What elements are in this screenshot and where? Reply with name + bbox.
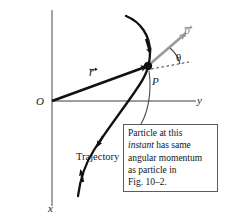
position-vector-group <box>52 66 148 101</box>
theta-angle-label: θ <box>176 52 181 63</box>
position-vector-arrow <box>52 66 148 101</box>
trajectory-label: Trajectory <box>76 152 119 163</box>
figure-canvas: O y x P θ Trajectory r p Particle at thi… <box>0 0 229 218</box>
vector-overarrow-icon <box>184 24 193 29</box>
callout-line-3: angular momentum <box>128 152 216 164</box>
callout-line-2-rest: has same <box>154 140 191 150</box>
callout-line-4: as particle in <box>128 164 216 176</box>
callout-line-2-emphasis: instant <box>128 140 154 150</box>
y-axis-label: y <box>197 95 202 106</box>
callout-text: Particle at this instant has same angula… <box>128 127 216 188</box>
trajectory-arrow-mid <box>98 136 103 145</box>
callout-line-1: Particle at this <box>128 127 216 139</box>
momentum-vector-label: p <box>184 24 190 36</box>
callout-line-2: instant has same <box>128 139 216 151</box>
origin-label: O <box>36 96 44 107</box>
position-vector-label: r <box>89 66 94 78</box>
vector-overarrow-icon <box>89 66 98 71</box>
particle-point-label: P <box>152 76 159 87</box>
callout-line-5: Fig. 10–2. <box>128 176 216 188</box>
particle-point-marker <box>144 62 152 70</box>
x-axis-label: x <box>48 203 53 214</box>
